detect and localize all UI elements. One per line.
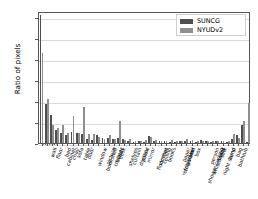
x-tick-mark — [228, 143, 229, 146]
bar-group — [112, 13, 116, 143]
x-tick-label: box — [194, 147, 202, 158]
bar-group — [60, 13, 64, 143]
x-tick-mark — [192, 143, 193, 146]
bar-group — [40, 13, 44, 143]
legend-item-suncg: SUNCG — [180, 17, 242, 25]
x-tick-mark — [140, 143, 141, 146]
x-tick-mark — [124, 143, 125, 146]
bar-nyudv2 — [42, 53, 44, 143]
x-tick-label: desk — [118, 147, 127, 160]
x-tick-mark — [233, 143, 234, 146]
x-tick-mark — [129, 143, 130, 146]
legend-label-nyudv2: NYUDv2 — [197, 26, 223, 34]
bar-nyudv2 — [47, 99, 49, 143]
bar-group — [96, 13, 100, 143]
x-tick-mark — [47, 143, 48, 146]
bar-nyudv2 — [119, 121, 121, 143]
legend-item-nyudv2: NYUDv2 — [180, 26, 242, 34]
bar-nyudv2 — [62, 125, 64, 143]
bar-group — [127, 13, 131, 143]
x-tick-mark — [171, 143, 172, 146]
chart-figure: Ratio of pixels 0.000.050.100.150.200.25… — [0, 0, 258, 199]
bar-group — [133, 13, 137, 143]
bar-group — [164, 13, 168, 143]
x-tick-mark — [93, 143, 94, 146]
legend-swatch-nyudv2 — [180, 28, 193, 33]
bar-group — [65, 13, 69, 143]
bar-nyudv2 — [67, 133, 69, 143]
bar-nyudv2 — [73, 116, 75, 143]
bar-group — [153, 13, 157, 143]
bar-nyudv2 — [243, 121, 245, 143]
bar-group — [107, 13, 111, 143]
bar-group — [55, 13, 59, 143]
legend-swatch-suncg — [180, 19, 193, 24]
legend-label-suncg: SUNCG — [197, 17, 220, 25]
bar-group — [148, 13, 152, 143]
x-tick-mark — [104, 143, 105, 146]
bar-group — [138, 13, 142, 143]
bar-nyudv2 — [233, 134, 235, 143]
bar-group — [102, 13, 106, 143]
x-tick-mark — [135, 143, 136, 146]
x-tick-mark — [186, 143, 187, 146]
x-tick-label: door — [87, 147, 96, 160]
x-tick-mark — [248, 143, 249, 146]
bar-group — [50, 13, 54, 143]
bar-group — [86, 13, 90, 143]
x-tick-mark — [161, 143, 162, 146]
bar-nyudv2 — [83, 107, 85, 143]
x-tick-mark — [98, 143, 99, 146]
bar-nyudv2 — [57, 128, 59, 143]
bar-nyudv2 — [88, 134, 90, 143]
x-tick-mark — [109, 143, 110, 146]
x-tick-mark — [176, 143, 177, 146]
bar-group — [45, 13, 49, 143]
bar-group — [246, 13, 250, 143]
x-tick-mark — [67, 143, 68, 146]
bar-group — [169, 13, 173, 143]
bar-nyudv2 — [78, 133, 80, 143]
x-tick-mark — [52, 143, 53, 146]
chart-legend: SUNCG NYUDv2 — [176, 14, 246, 36]
bar-group — [76, 13, 80, 143]
x-tick-mark — [114, 143, 115, 146]
x-axis-tick-labels: wallfloorcabinetbedchairsofatabledoorwin… — [38, 147, 250, 199]
bar-group — [91, 13, 95, 143]
x-tick-mark — [73, 143, 74, 146]
bar-group — [159, 13, 163, 143]
x-tick-mark — [155, 143, 156, 146]
x-tick-mark — [202, 143, 203, 146]
bar-group — [81, 13, 85, 143]
x-tick-mark — [62, 143, 63, 146]
x-tick-mark — [212, 143, 213, 146]
x-tick-mark — [181, 143, 182, 146]
y-tick-mark — [35, 144, 38, 145]
x-tick-mark — [197, 143, 198, 146]
bar-nyudv2 — [109, 135, 111, 143]
x-tick-mark — [42, 143, 43, 146]
bar-group — [143, 13, 147, 143]
x-tick-mark — [83, 143, 84, 146]
bar-group — [117, 13, 121, 143]
bar-nyudv2 — [248, 103, 250, 143]
x-tick-mark — [207, 143, 208, 146]
bar-group — [122, 13, 126, 143]
bar-nyudv2 — [93, 134, 95, 143]
bar-nyudv2 — [52, 125, 54, 143]
bar-group — [71, 13, 75, 143]
x-tick-mark — [223, 143, 224, 146]
x-tick-mark — [243, 143, 244, 146]
